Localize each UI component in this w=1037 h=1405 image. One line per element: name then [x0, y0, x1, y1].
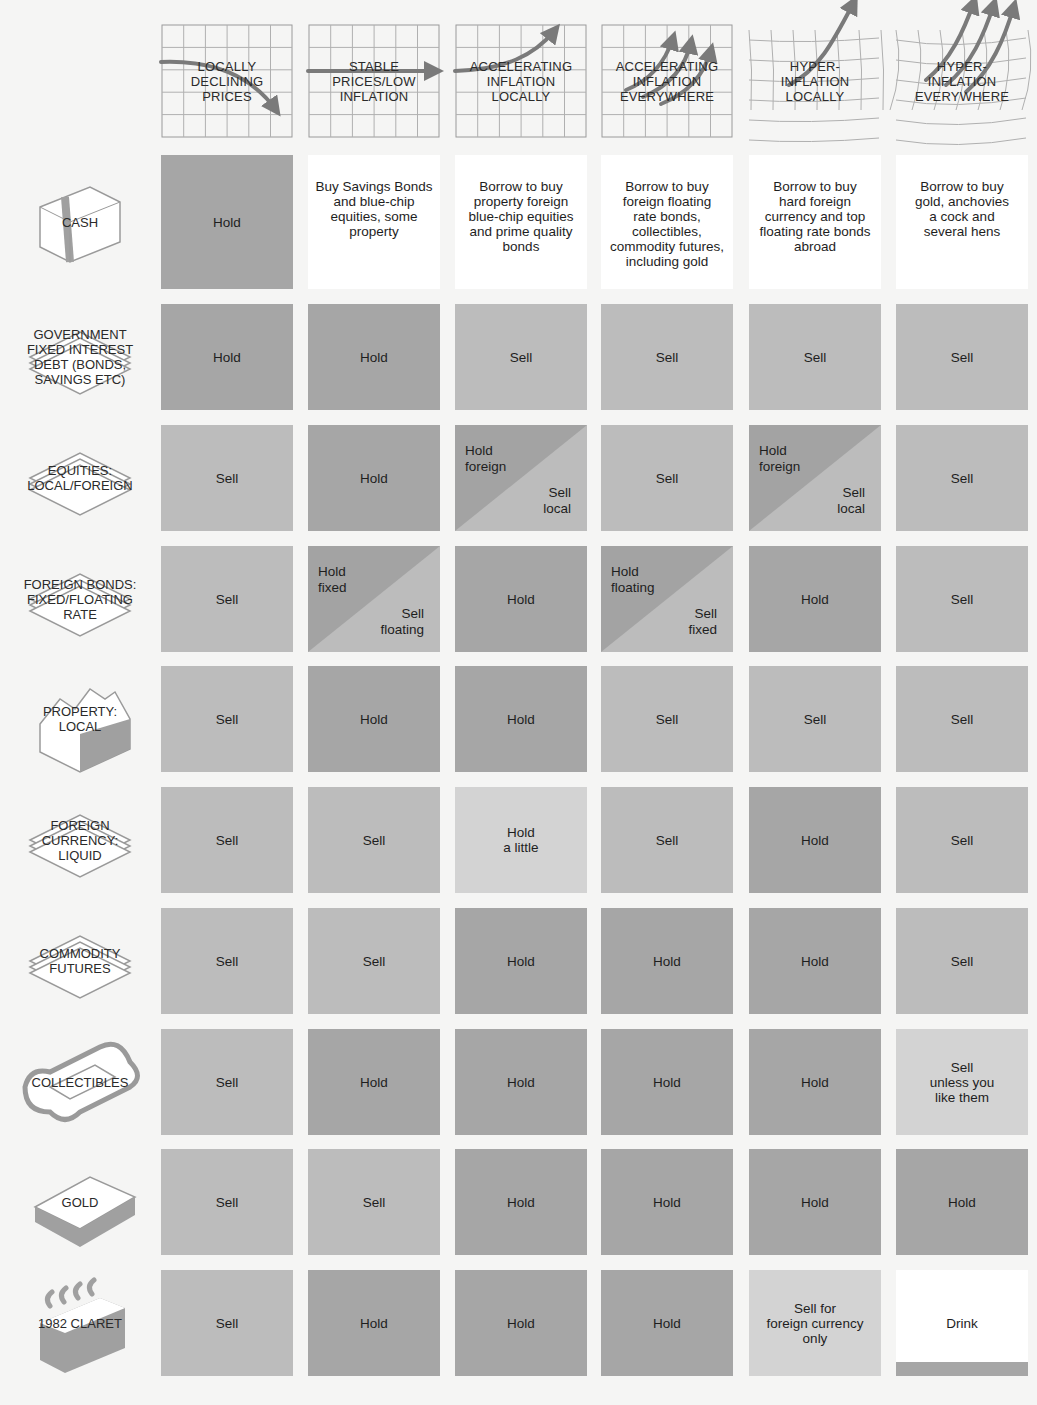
strategy-cell: Hold — [455, 666, 587, 772]
strategy-cell: Hold — [749, 787, 881, 893]
strategy-cell: Sell — [601, 425, 733, 531]
row-header: FOREIGN BONDS: FIXED/FLOATING RATE — [0, 546, 160, 652]
column-header-5: HYPER- INFLATION LOCALLY — [749, 24, 881, 138]
strategy-cell: Sell — [161, 787, 293, 893]
column-header-1: LOCALLY DECLINING PRICES — [161, 24, 293, 138]
column-header-label: LOCALLY DECLINING PRICES — [191, 59, 264, 104]
strategy-cell: Hold — [455, 1270, 587, 1376]
strategy-text: Hold — [360, 1075, 388, 1090]
row-header-label: EQUITIES: LOCAL/FOREIGN — [27, 463, 132, 493]
strategy-cell: Drink — [896, 1270, 1028, 1376]
strategy-text: Hold — [360, 1316, 388, 1331]
strategy-text: Hold — [801, 954, 829, 969]
row-header: 1982 CLARET — [0, 1270, 160, 1376]
strategy-text: Borrow to buy property foreign blue-chip… — [468, 179, 573, 254]
strategy-cell: Sell — [896, 787, 1028, 893]
strategy-text: Hold — [653, 954, 681, 969]
row-header-label: FOREIGN BONDS: FIXED/FLOATING RATE — [24, 577, 137, 622]
strategy-text: Sell — [216, 1075, 239, 1090]
row-header-label: PROPERTY: LOCAL — [43, 704, 117, 734]
strategy-cell: Hold — [601, 1029, 733, 1135]
strategy-cell: Sell — [601, 787, 733, 893]
strategy-text: Sell — [951, 350, 974, 365]
strategy-cell: Hold — [455, 546, 587, 652]
strategy-text: Sell — [951, 592, 974, 607]
strategy-cell: Sell — [161, 425, 293, 531]
column-header-label: ACCELERATING INFLATION LOCALLY — [470, 59, 573, 104]
row-header: EQUITIES: LOCAL/FOREIGN — [0, 425, 160, 531]
strategy-cell: Sell — [308, 1149, 440, 1255]
strategy-cell: Hold — [455, 1029, 587, 1135]
strategy-text: Hold — [360, 471, 388, 486]
strategy-cell: Sell — [896, 908, 1028, 1014]
strategy-cell: Hold — [161, 304, 293, 410]
strategy-cell: Hold foreign Sell local — [749, 425, 881, 531]
row-header-label: 1982 CLARET — [38, 1316, 122, 1331]
strategy-text: Hold — [360, 350, 388, 365]
strategy-cell: Sell — [161, 908, 293, 1014]
hold-advice: Hold foreign — [465, 443, 506, 475]
row-header: GOVERNMENT FIXED INTEREST DEBT (BONDS, S… — [0, 304, 160, 410]
strategy-text: Hold — [653, 1075, 681, 1090]
strategy-cell: Sell — [161, 1270, 293, 1376]
strategy-text: Sell — [510, 350, 533, 365]
row-header: GOLD — [0, 1149, 160, 1255]
strategy-text: Sell — [656, 833, 679, 848]
strategy-text: Hold — [213, 215, 241, 230]
strategy-text: Hold — [653, 1316, 681, 1331]
strategy-cell: Borrow to buy gold, anchovies a cock and… — [896, 155, 1028, 289]
strategy-cell: Hold foreign Sell local — [455, 425, 587, 531]
strategy-cell: Sell — [601, 304, 733, 410]
strategy-text: Hold — [801, 1195, 829, 1210]
strategy-cell: Hold — [601, 908, 733, 1014]
strategy-text: Hold — [507, 712, 535, 727]
row-header-label: FOREIGN CURRENCY: LIQUID — [42, 818, 119, 863]
column-header-label: ACCELERATING INFLATION EVERYWHERE — [616, 59, 719, 104]
strategy-text: Buy Savings Bonds and blue-chip equities… — [315, 179, 432, 239]
strategy-cell: Hold — [601, 1149, 733, 1255]
column-header-4: ACCELERATING INFLATION EVERYWHERE — [601, 24, 733, 138]
strategy-text: Sell — [656, 350, 679, 365]
strategy-text: Sell — [216, 1316, 239, 1331]
row-header-label: GOLD — [62, 1195, 99, 1210]
strategy-cell: Sell — [161, 1149, 293, 1255]
strategy-cell: Sell — [161, 546, 293, 652]
strategy-cell: Sell unless you like them — [896, 1029, 1028, 1135]
column-header-2: STABLE PRICES/LOW INFLATION — [308, 24, 440, 138]
strategy-text: Sell for foreign currency only — [767, 1301, 864, 1346]
strategy-text: Borrow to buy hard foreign currency and … — [759, 179, 870, 254]
strategy-cell: Sell — [161, 1029, 293, 1135]
column-header-label: HYPER- INFLATION EVERYWHERE — [915, 59, 1009, 104]
column-header-label: HYPER- INFLATION LOCALLY — [781, 59, 850, 104]
strategy-text: Sell — [656, 471, 679, 486]
strategy-cell: Hold — [455, 1149, 587, 1255]
strategy-text: Sell — [656, 712, 679, 727]
column-header-3: ACCELERATING INFLATION LOCALLY — [455, 24, 587, 138]
strategy-cell: Sell — [601, 666, 733, 772]
row-header: COMMODITY FUTURES — [0, 908, 160, 1014]
strategy-cell: Hold — [161, 155, 293, 289]
strategy-cell: Hold — [308, 425, 440, 531]
strategy-cell: Hold — [601, 1270, 733, 1376]
strategy-text: Sell — [216, 592, 239, 607]
strategy-cell: Hold a little — [455, 787, 587, 893]
strategy-cell: Hold — [749, 546, 881, 652]
strategy-text: Sell — [216, 954, 239, 969]
strategy-text: Hold — [213, 350, 241, 365]
strategy-cell: Hold — [308, 666, 440, 772]
strategy-cell: Hold floating Sell fixed — [601, 546, 733, 652]
strategy-text: Hold — [801, 1075, 829, 1090]
strategy-cell: Sell — [161, 666, 293, 772]
strategy-text: Sell — [216, 471, 239, 486]
strategy-text: Sell — [363, 1195, 386, 1210]
strategy-text: Hold — [507, 1316, 535, 1331]
strategy-text: Hold — [507, 592, 535, 607]
grey-bar — [896, 1362, 1028, 1376]
strategy-cell: Sell — [896, 546, 1028, 652]
strategy-text: Hold — [507, 1195, 535, 1210]
strategy-cell: Hold — [896, 1149, 1028, 1255]
strategy-cell: Hold — [749, 1029, 881, 1135]
strategy-cell: Sell — [896, 425, 1028, 531]
strategy-text: Hold — [801, 833, 829, 848]
strategy-text: Sell — [216, 1195, 239, 1210]
